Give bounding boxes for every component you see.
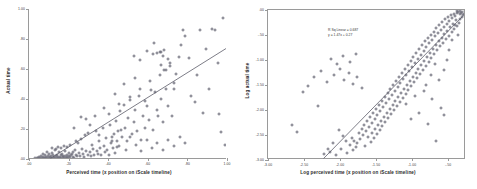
y-tick-mark [26, 129, 29, 130]
y-tick-mark [265, 135, 268, 136]
x-tick-mark [376, 158, 377, 161]
x-tick-label: .20 [66, 162, 71, 166]
y-tick-mark [265, 160, 268, 161]
x-tick-mark [304, 158, 305, 161]
x-tick-mark [412, 158, 413, 161]
y-axis-title-left: Actual time [6, 61, 11, 101]
y-tick-mark [265, 110, 268, 111]
x-tick-mark [340, 158, 341, 161]
y-tick-mark [26, 159, 29, 160]
y-tick-mark [265, 85, 268, 86]
y-tick-label: .20 [7, 127, 25, 131]
y-tick-mark [26, 99, 29, 100]
y-tick-mark [265, 35, 268, 36]
regression-line-right [268, 10, 464, 158]
x-tick-label: -3.00 [264, 163, 272, 167]
regression-line-left [29, 9, 226, 158]
y-tick-mark [265, 10, 268, 11]
y-tick-mark [26, 69, 29, 70]
x-tick-label: -.50 [445, 163, 451, 167]
x-tick-mark [448, 158, 449, 161]
regression-annotation: R Sq Linear = 0.687 y = 1.47x + 0.27 [328, 28, 358, 38]
y-tick-label: -2.00 [246, 108, 264, 112]
scatter-panel-right: -3.00-2.50-2.00-1.50-1.00-.50 .00-.50-1.… [239, 0, 477, 189]
y-tick-label: 1.00 [7, 7, 25, 11]
figure-root: .00.20.40.60.801.00 .00.20.40.60.801.00 … [0, 0, 477, 189]
y-tick-mark [265, 60, 268, 61]
x-tick-label: .80 [185, 162, 190, 166]
x-axis-title-left: Perceived time (x position on iScale tim… [0, 170, 238, 175]
x-tick-mark [69, 158, 70, 161]
x-tick-label: .60 [145, 162, 150, 166]
x-tick-label: .00 [26, 162, 31, 166]
y-tick-mark [26, 9, 29, 10]
equation-label: y = 1.47x + 0.27 [328, 33, 358, 38]
y-tick-label: -.50 [246, 33, 264, 37]
plot-area-right: -3.00-2.50-2.00-1.50-1.00-.50 .00-.50-1.… [267, 9, 465, 159]
y-tick-label: -3.00 [246, 158, 264, 162]
x-tick-label: 1.00 [224, 162, 231, 166]
y-tick-label: .80 [7, 37, 25, 41]
scatter-panel-left: .00.20.40.60.801.00 .00.20.40.60.801.00 … [0, 0, 238, 189]
y-axis-title-right: Log actual time [245, 61, 250, 101]
x-tick-label: -1.00 [408, 163, 416, 167]
y-tick-mark [26, 39, 29, 40]
x-tick-mark [148, 158, 149, 161]
x-tick-label: -1.50 [372, 163, 380, 167]
x-tick-mark [108, 158, 109, 161]
x-axis-title-right: Log perceived time (x position on iScale… [239, 170, 477, 175]
y-tick-label: .00 [246, 8, 264, 12]
x-tick-label: -2.00 [336, 163, 344, 167]
y-tick-label: -2.50 [246, 133, 264, 137]
x-tick-mark [227, 158, 228, 161]
x-tick-label: -2.50 [300, 163, 308, 167]
x-tick-mark [29, 158, 30, 161]
x-tick-mark [268, 158, 269, 161]
y-tick-label: .00 [7, 157, 25, 161]
x-tick-label: .40 [106, 162, 111, 166]
plot-area-left: .00.20.40.60.801.00 .00.20.40.60.801.00 [28, 9, 226, 159]
x-tick-mark [187, 158, 188, 161]
